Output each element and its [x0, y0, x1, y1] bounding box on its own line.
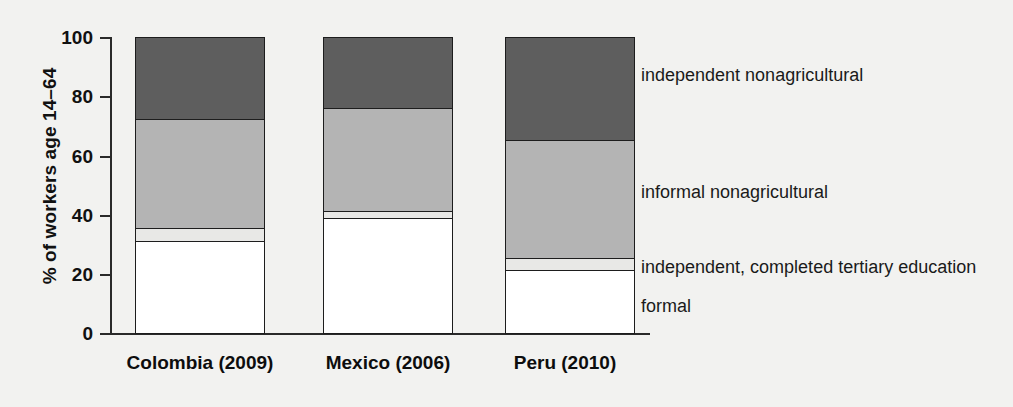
bar-segment-formal: [505, 270, 635, 334]
tick-mark: [100, 156, 111, 158]
stacked-bar-chart: % of workers age 14–64 100 80 60 40 20 0: [0, 0, 1013, 407]
legend-label-informal-nonagricultural: informal nonagricultural: [641, 183, 828, 201]
y-tick-40: 40: [0, 215, 111, 217]
x-label-colombia: Colombia (2009): [95, 352, 305, 374]
y-tick-20: 20: [0, 274, 111, 276]
legend-label-formal: formal: [641, 297, 691, 315]
bar-mexico: [323, 37, 453, 334]
tick-mark: [100, 274, 111, 276]
bar-segment-independent-nonagricultural: [505, 37, 635, 141]
tick-mark: [100, 37, 111, 39]
bar-segment-independent-tertiary: [135, 228, 265, 242]
bar-peru: [505, 37, 635, 334]
y-tick-label: 40: [41, 206, 93, 225]
tick-mark: [100, 96, 111, 98]
legend-label-independent-nonagricultural: independent nonagricultural: [641, 66, 863, 84]
y-tick-label: 100: [41, 28, 93, 47]
bar-segment-formal: [323, 218, 453, 334]
y-tick-0: 0: [0, 333, 111, 335]
y-tick-label: 0: [41, 324, 93, 343]
tick-mark: [100, 215, 111, 217]
y-tick-100: 100: [0, 37, 111, 39]
y-tick-label: 80: [41, 87, 93, 106]
bar-segment-informal-nonagricultural: [505, 140, 635, 259]
legend-label-independent-tertiary: independent, completed tertiary educatio…: [641, 258, 976, 276]
bar-segment-independent-nonagricultural: [135, 37, 265, 120]
tick-mark: [100, 333, 111, 335]
bar-colombia: [135, 37, 265, 334]
bar-segment-formal: [135, 241, 265, 334]
bar-segment-informal-nonagricultural: [135, 119, 265, 229]
y-tick-60: 60: [0, 156, 111, 158]
y-tick-label: 60: [41, 147, 93, 166]
y-axis-line: [110, 37, 112, 334]
y-tick-80: 80: [0, 96, 111, 98]
bar-segment-informal-nonagricultural: [323, 108, 453, 212]
bar-segment-independent-nonagricultural: [323, 37, 453, 109]
y-tick-label: 20: [41, 265, 93, 284]
x-label-peru: Peru (2010): [460, 352, 670, 374]
